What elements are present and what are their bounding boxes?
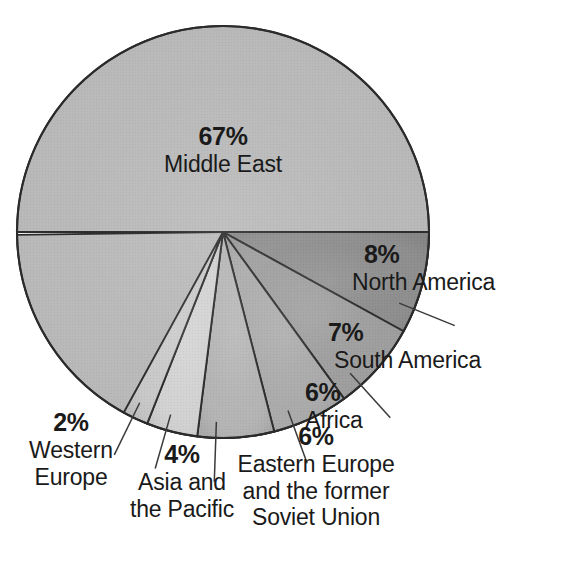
pie-slices [17,26,429,438]
slice-percent-north-america: 8% [364,240,582,269]
slice-label-western-europe: 2% Western Europe [6,408,136,490]
slice-name-asia-pacific-line2: the Pacific [112,496,252,523]
slice-name-western-europe-line1: Western [6,437,136,464]
slice-percent-middle-east: 67% [118,122,328,151]
slice-name-western-europe-line2: Europe [6,464,136,491]
slice-label-middle-east: 67% Middle East [118,122,328,178]
slice-name-middle-east: Middle East [118,151,328,178]
slice-percent-western-europe: 2% [6,408,136,437]
slice-percent-africa: 6% [305,378,455,407]
pie-chart-figure: 67% Middle East 8% North America 7% Sout… [0,0,584,561]
slice-name-north-america: North America [352,269,582,296]
slice-label-south-america: 7% South America [334,318,582,374]
slice-percent-south-america: 7% [328,318,582,347]
slice-name-south-america: South America [334,347,582,374]
slice-label-north-america: 8% North America [352,240,582,296]
